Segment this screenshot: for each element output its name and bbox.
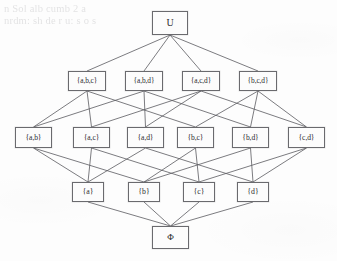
lattice-node-bc: {b,c} xyxy=(177,127,214,148)
lattice-edge-bd-b xyxy=(144,148,251,182)
lattice-node-c: {c} xyxy=(183,182,215,202)
lattice-node-label: {a,d} xyxy=(138,133,154,141)
lattice-node-cd: {c,d} xyxy=(288,127,325,148)
lattice-edge-abd-ab xyxy=(34,91,145,127)
lattice-node-label: U xyxy=(166,18,173,28)
lattice-node-U: U xyxy=(152,11,188,35)
lattice-node-label: {d} xyxy=(247,188,258,196)
lattice-node-bd: {b,d} xyxy=(232,127,269,148)
lattice-edge-cd-d xyxy=(253,148,307,182)
lattice-node-b: {b} xyxy=(128,182,160,202)
lattice-edge-U-acd xyxy=(170,35,201,71)
lattice-node-label: {a,b,d} xyxy=(134,77,155,84)
lattice-node-acd: {a,c,d} xyxy=(182,71,220,91)
lattice-node-label: Φ xyxy=(167,233,174,242)
lattice-edge-abd-bd xyxy=(144,91,251,127)
lattice-edge-U-bcd xyxy=(170,35,258,71)
lattice-edge-acd-ad xyxy=(146,91,202,127)
lattice-edge-abc-bc xyxy=(87,91,196,127)
lattice-edge-ad-d xyxy=(146,148,254,182)
lattice-edge-bcd-bc xyxy=(196,91,259,127)
lattice-node-ac: {a,c} xyxy=(73,127,110,148)
lattice-node-ad: {a,d} xyxy=(127,127,164,148)
lattice-node-label: {b,d} xyxy=(242,133,258,141)
lattice-node-label: {a,c} xyxy=(84,133,99,141)
lattice-edge-bcd-cd xyxy=(258,91,307,127)
lattice-edge-acd-ac xyxy=(92,91,202,127)
lattice-node-phi: Φ xyxy=(152,226,189,249)
lattice-edge-bcd-bd xyxy=(251,91,259,127)
lattice-node-label: {a} xyxy=(83,188,94,196)
lattice-node-label: {a,b,c} xyxy=(77,77,97,84)
lattice-edge-bc-b xyxy=(144,148,196,182)
lattice-edge-abc-ab xyxy=(34,91,88,127)
lattice-node-a: {a} xyxy=(72,182,104,202)
lattice-node-label: {c} xyxy=(194,188,205,196)
lattice-node-bcd: {b,c,d} xyxy=(239,71,277,91)
lattice-edge-a-phi xyxy=(88,202,171,226)
lattice-node-label: {a,b} xyxy=(26,133,42,141)
lattice-node-abc: {a,b,c} xyxy=(68,71,106,91)
lattice-node-label: {c,d} xyxy=(299,133,315,141)
lattice-node-label: {b,c} xyxy=(188,133,204,141)
lattice-node-label: {a,c,d} xyxy=(191,77,211,84)
lattice-node-ab: {a,b} xyxy=(15,127,52,148)
lattice-edge-acd-cd xyxy=(201,91,307,127)
lattice-edge-U-abc xyxy=(87,35,170,71)
lattice-node-abd: {a,b,d} xyxy=(125,71,163,91)
lattice-edge-ac-c xyxy=(92,148,200,182)
lattice-node-d: {d} xyxy=(237,182,269,202)
lattice-edge-ab-a xyxy=(34,148,89,182)
lattice-edge-c-phi xyxy=(171,202,200,226)
lattice-edge-ad-a xyxy=(88,148,146,182)
hasse-diagram-figure: n Sol alb cumb 2 a nrdm: sh de r u: s o … xyxy=(0,0,337,261)
lattice-node-label: {b} xyxy=(138,188,149,196)
lattice-node-label: {b,c,d} xyxy=(248,77,269,84)
lattice-edge-d-phi xyxy=(171,202,254,226)
